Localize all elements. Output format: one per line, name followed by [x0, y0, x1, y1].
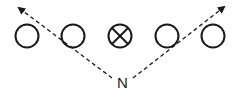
origin-label: N: [117, 74, 128, 91]
left-route-arrow: [19, 8, 112, 78]
play-diagram: N: [0, 0, 237, 95]
player-circle-2: [62, 25, 85, 48]
center-x-circle-icon: [109, 25, 132, 48]
player-circle-5: [202, 25, 225, 48]
player-circle-4: [156, 25, 179, 48]
routes: [19, 7, 224, 78]
player-row: [16, 25, 225, 48]
right-route-arrow: [133, 7, 224, 78]
player-circle-1: [16, 25, 39, 48]
